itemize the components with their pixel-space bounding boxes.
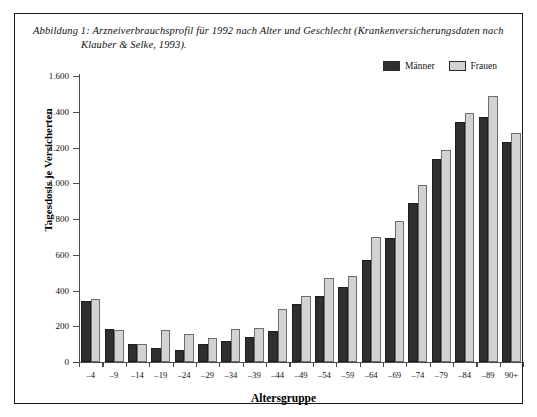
bar-männer-4 [175,350,185,363]
x-tick-cell-11 [336,362,359,368]
bar-frauen-3 [161,330,171,362]
legend-swatch-frauen [449,61,466,71]
bar-männer-12 [362,260,372,362]
bar-group [126,76,149,362]
bar-männer-14 [408,203,418,362]
bar-group [430,76,453,362]
chart-legend: MännerFrauen [383,59,513,73]
bar-group [102,76,125,362]
legend-entry-0: Männer [383,61,435,71]
bar-männer-2 [128,344,138,362]
bar-frauen-13 [395,221,405,362]
bar-group [406,76,429,362]
bar-frauen-9 [301,296,311,362]
legend-label-0: Männer [405,61,435,71]
x-tick-cell-4 [173,362,196,368]
y-axis-title: Tagesdosis je Versicherten [42,75,54,265]
x-tick-mark-0 [79,362,80,367]
bar-group [243,76,266,362]
x-tick-mark-8 [266,362,267,367]
caption-line-1: Abbildung 1: Arzneiverbrauchsprofil für … [33,25,504,36]
bar-frauen-12 [371,237,381,362]
bar-group [149,76,172,362]
x-tick-label-5: –29 [196,370,219,384]
x-tick-label-17: –89 [476,370,499,384]
x-tick-cell-13 [383,362,406,368]
x-tick-mark-6 [219,362,220,367]
x-tick-mark-18 [500,362,501,367]
bar-männer-13 [385,238,395,362]
bar-group [79,76,102,362]
bar-frauen-5 [208,338,218,362]
x-axis-title: Altersgruppe [15,392,537,404]
x-tick-cell-2 [126,362,149,368]
x-tick-label-4: –24 [173,370,196,384]
x-tick-label-11: –59 [336,370,359,384]
bar-männer-7 [245,337,255,362]
y-tick-label-400: 400 [15,286,69,296]
bar-frauen-8 [278,309,288,362]
x-tick-mark-14 [406,362,407,367]
x-tick-label-18: 90+ [500,370,523,384]
x-tick-cell-5 [196,362,219,368]
bar-groups [79,76,523,362]
bar-frauen-1 [114,330,124,362]
x-tick-cell-1 [102,362,125,368]
x-tick-label-1: –9 [102,370,125,384]
x-tick-cell-15 [430,362,453,368]
bar-frauen-10 [324,278,334,362]
bar-frauen-0 [91,299,101,362]
x-tick-cell-3 [149,362,172,368]
bar-frauen-16 [465,113,475,362]
x-axis-tick-labels: –4–9–14–19–24–29–34–39–44–49–54–59–64–69… [79,370,523,384]
x-tick-cell-17 [476,362,499,368]
bar-männer-10 [315,296,325,362]
x-tick-cell-16 [453,362,476,368]
x-tick-cell-7 [243,362,266,368]
bar-frauen-2 [137,344,147,362]
x-tick-mark-4 [173,362,174,367]
bar-group [383,76,406,362]
x-tick-cell-9 [289,362,312,368]
bar-frauen-18 [511,133,521,362]
bar-männer-0 [81,301,91,362]
y-tick-label-200: 200 [15,321,69,331]
x-tick-mark-end [523,362,524,367]
bar-männer-18 [502,142,512,362]
x-axis-ticks [79,362,523,368]
x-tick-label-14: –74 [406,370,429,384]
bar-männer-9 [292,304,302,362]
x-tick-cell-0 [79,362,102,368]
x-tick-label-9: –49 [289,370,312,384]
x-tick-label-6: –34 [219,370,242,384]
x-tick-mark-15 [430,362,431,367]
bar-group [173,76,196,362]
x-tick-label-12: –64 [360,370,383,384]
bar-group [336,76,359,362]
x-tick-label-10: –54 [313,370,336,384]
x-tick-label-13: –69 [383,370,406,384]
x-tick-cell-8 [266,362,289,368]
bar-frauen-17 [488,96,498,362]
x-tick-label-16: –84 [453,370,476,384]
x-tick-cell-10 [313,362,336,368]
x-tick-label-8: –44 [266,370,289,384]
bar-männer-15 [432,159,442,362]
bar-group [196,76,219,362]
x-tick-mark-17 [476,362,477,367]
bar-männer-17 [479,117,489,362]
x-tick-mark-7 [243,362,244,367]
x-tick-cell-18 [500,362,523,368]
bar-group [360,76,383,362]
bar-group [313,76,336,362]
x-tick-label-0: –4 [79,370,102,384]
x-tick-mark-12 [360,362,361,367]
bar-frauen-4 [184,334,194,362]
bar-männer-8 [268,331,278,362]
figure-caption: Abbildung 1: Arzneiverbrauchsprofil für … [33,24,507,52]
bar-männer-11 [338,287,348,362]
bar-frauen-14 [418,185,428,362]
bar-männer-6 [221,341,231,362]
y-tick-label-0: 0 [15,357,69,367]
bar-frauen-7 [254,328,264,362]
